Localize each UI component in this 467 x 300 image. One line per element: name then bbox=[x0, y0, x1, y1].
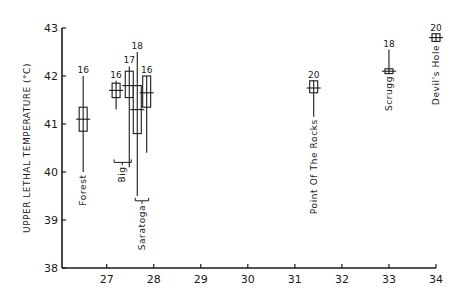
y-tick-label: 38 bbox=[44, 262, 58, 275]
x-tick-label: 31 bbox=[288, 273, 302, 286]
y-tick-label: 40 bbox=[44, 166, 58, 179]
sample-size-label: 18 bbox=[132, 41, 144, 51]
x-tick-label: 34 bbox=[429, 273, 443, 286]
x-tick-label: 29 bbox=[194, 273, 208, 286]
y-tick-label: 39 bbox=[44, 214, 58, 227]
plot-marks: 1616171816201820ForestBigSaratogaPoint O… bbox=[76, 23, 443, 251]
y-tick-label: 43 bbox=[44, 22, 58, 35]
x-tick-label: 33 bbox=[382, 273, 396, 286]
box-scrugg: 18 bbox=[382, 39, 396, 74]
sample-size-label: 16 bbox=[141, 65, 153, 75]
group-bracket bbox=[135, 198, 148, 204]
site-label: Forest bbox=[78, 174, 88, 205]
sample-size-label: 17 bbox=[124, 55, 135, 65]
site-label: Devil's Hole bbox=[431, 45, 441, 105]
x-tick-label: 30 bbox=[241, 273, 255, 286]
site-label: Point Of The Rocks bbox=[309, 119, 319, 214]
group-bracket bbox=[114, 159, 131, 165]
site-label: Saratoga bbox=[137, 205, 147, 251]
axes: 3839404142432728293031323334 bbox=[44, 22, 443, 286]
y-tick-label: 42 bbox=[44, 70, 58, 83]
x-tick-label: 28 bbox=[147, 273, 161, 286]
sample-size-label: 18 bbox=[383, 39, 395, 49]
box-devil-s-hole: 20 bbox=[429, 23, 443, 42]
x-tick-label: 27 bbox=[100, 273, 114, 286]
sample-size-label: 16 bbox=[77, 65, 89, 75]
sample-size-label: 20 bbox=[430, 23, 442, 33]
site-label: Big bbox=[117, 166, 127, 182]
box-plot-chart: UPPER LETHAL TEMPERATURE (°C) 3839404142… bbox=[0, 0, 467, 300]
box-point-of-the-rocks: 20 bbox=[307, 70, 321, 117]
box-big-1: 16 bbox=[109, 70, 123, 110]
y-tick-label: 41 bbox=[44, 118, 58, 131]
sample-size-label: 16 bbox=[110, 70, 122, 80]
y-axis-label: UPPER LETHAL TEMPERATURE (°C) bbox=[22, 63, 32, 233]
site-label: Scrugg bbox=[384, 76, 394, 111]
x-tick-label: 32 bbox=[335, 273, 349, 286]
sample-size-label: 20 bbox=[308, 70, 320, 80]
box-forest: 16 bbox=[76, 65, 90, 172]
